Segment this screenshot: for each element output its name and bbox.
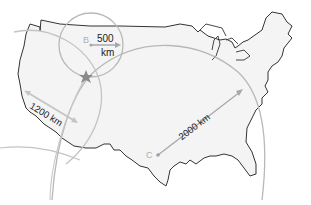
us-map-graphic [0,0,311,205]
epicenter-map: B 500 km 1200 km C 2000 km [0,0,311,205]
station-c-dot [156,153,160,157]
station-b-dot [89,43,92,46]
radius-b-unit: km [101,48,114,58]
station-c-label: C [146,151,153,160]
station-b-label: B [83,36,89,45]
radius-arc-a-lower [0,147,80,160]
radius-b-value: 500 [97,34,114,44]
